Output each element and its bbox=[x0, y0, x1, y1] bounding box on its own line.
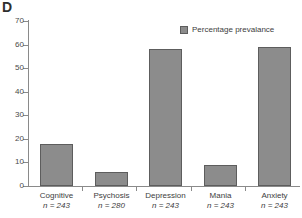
panel-label: D bbox=[2, 0, 12, 14]
legend-label: Percentage prevalance bbox=[192, 25, 274, 34]
y-tick-label-50: 50 bbox=[2, 64, 24, 72]
sample-size-text: n = 243 bbox=[43, 201, 70, 210]
sample-size-text: n = 243 bbox=[261, 201, 288, 210]
legend-color-swatch-icon bbox=[180, 26, 188, 34]
sample-size-text: n = 243 bbox=[207, 201, 234, 210]
bar-depression[interactable] bbox=[149, 49, 182, 186]
chart-legend: Percentage prevalance bbox=[180, 25, 274, 34]
bar-anxiety[interactable] bbox=[258, 47, 291, 186]
x-category-label: Anxiety bbox=[238, 191, 302, 201]
y-tick-label-30: 30 bbox=[2, 111, 24, 119]
bar-psychosis[interactable] bbox=[95, 172, 128, 186]
bar-cognitive[interactable] bbox=[40, 144, 73, 186]
sample-size-text: n = 280 bbox=[98, 201, 125, 210]
x-category-sample-size: n = 243 bbox=[238, 201, 302, 211]
y-tick-label-60: 60 bbox=[2, 41, 24, 49]
bar-mania[interactable] bbox=[204, 165, 237, 186]
x-axis-line bbox=[28, 186, 300, 187]
y-tick-label-20: 20 bbox=[2, 135, 24, 143]
bar-chart-figure: D 0 10 20 30 40 50 60 70 Cognitive n = 2… bbox=[0, 0, 302, 218]
y-tick-label-10: 10 bbox=[2, 158, 24, 166]
x-category-anxiety: Anxiety n = 243 bbox=[238, 191, 302, 211]
y-tick-label-70: 70 bbox=[2, 17, 24, 25]
y-axis-line bbox=[28, 20, 29, 187]
y-tick-label-40: 40 bbox=[2, 88, 24, 96]
sample-size-text: n = 243 bbox=[152, 201, 179, 210]
y-tick-label-0: 0 bbox=[2, 182, 24, 190]
